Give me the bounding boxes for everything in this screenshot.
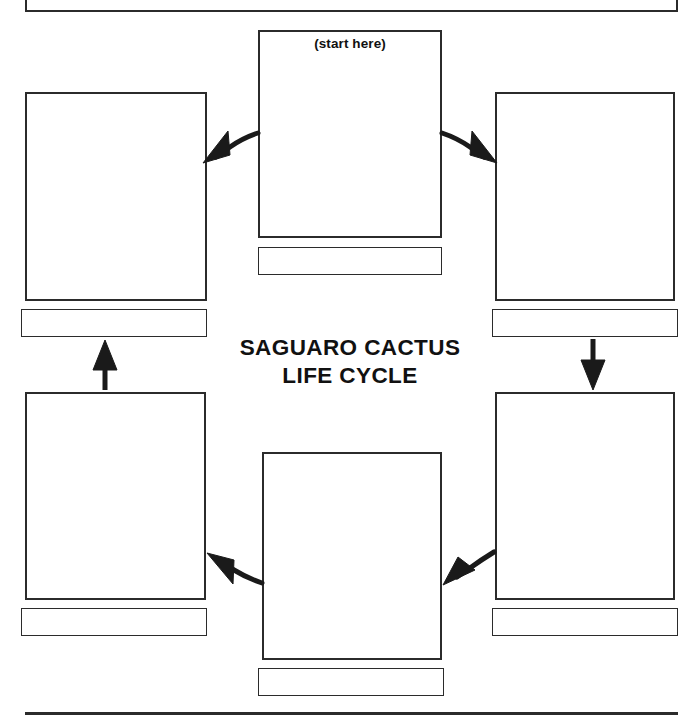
arrow-left-bottom-to-left-top-icon: [93, 340, 117, 390]
stage-4-caption-box[interactable]: [258, 668, 444, 696]
page-title-line-2: LIFE CYCLE: [215, 362, 485, 390]
arrow-start-to-left-top-icon: [203, 131, 258, 163]
stage-1-caption-box[interactable]: [258, 247, 442, 275]
stage-5-caption-box[interactable]: [21, 608, 207, 636]
start-here-label: (start here): [260, 36, 440, 51]
stage-6-picture-box[interactable]: [25, 92, 207, 301]
arrow-bottom-center-to-left-bottom-icon: [207, 553, 262, 584]
stage-2-caption-box[interactable]: [492, 309, 678, 337]
arrow-start-to-right-top-icon: [442, 131, 497, 163]
stage-6-caption-box[interactable]: [21, 309, 207, 337]
stage-3-picture-box[interactable]: [495, 392, 675, 600]
page-title-line-1: SAGUARO CACTUS: [215, 334, 485, 362]
stage-5-picture-box[interactable]: [25, 392, 206, 600]
footer-rule: [25, 712, 678, 715]
worksheet-page: (start here) SAGUARO CACTUS LIFE CYCLE: [0, 0, 699, 726]
top-instruction-frame: [25, 0, 678, 12]
page-title: SAGUARO CACTUS LIFE CYCLE: [215, 334, 485, 390]
stage-2-picture-box[interactable]: [495, 92, 675, 301]
arrow-right-top-to-right-bottom-icon: [581, 339, 605, 390]
arrow-right-bottom-to-bottom-center-icon: [443, 552, 494, 585]
stage-1-picture-box[interactable]: (start here): [258, 30, 442, 238]
stage-3-caption-box[interactable]: [492, 608, 678, 636]
stage-4-picture-box[interactable]: [262, 452, 442, 660]
